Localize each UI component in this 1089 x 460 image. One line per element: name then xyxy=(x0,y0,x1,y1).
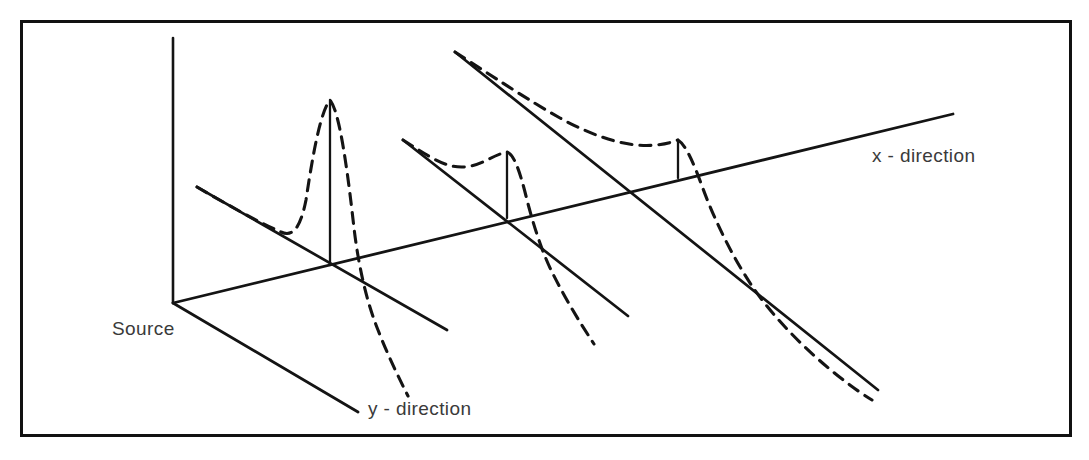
source-label: Source xyxy=(112,318,175,340)
beam-profile-figure: Source y - direction x - direction xyxy=(0,0,1089,460)
figure-border xyxy=(22,22,1071,436)
x-direction-label: x - direction xyxy=(872,145,975,167)
y-direction-label: y - direction xyxy=(368,398,471,420)
figure-canvas xyxy=(0,0,1089,460)
